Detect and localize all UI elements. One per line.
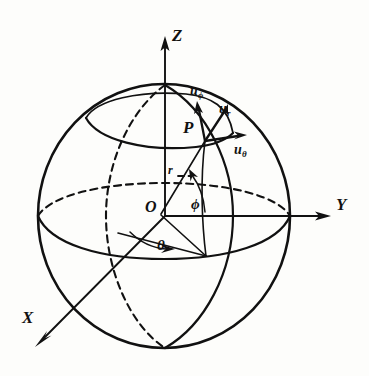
equator-back-dashed: [38, 183, 290, 216]
unit-vector-ur-label: ur: [219, 102, 231, 118]
meridian-back-dashed: [106, 85, 165, 348]
point-p-label: P: [183, 119, 193, 136]
x-axis-label: X: [22, 309, 33, 326]
y-axis-label: Y: [336, 196, 346, 213]
x-axis-line: [44, 216, 165, 338]
phi-angle-label: ϕ: [191, 197, 200, 212]
theta-angle-label: θ: [157, 238, 165, 253]
z-axis-label: Z: [172, 27, 182, 44]
utheta-subscript: θ: [242, 149, 247, 159]
unit-vector-utheta-label: uθ: [234, 143, 247, 159]
spherical-coordinate-diagram: Z Y X P O r ϕ θ uϕ ur uθ: [0, 0, 369, 376]
uphi-subscript: ϕ: [198, 90, 203, 100]
unit-vector-uphi-label: uϕ: [190, 84, 203, 100]
radius-label: r: [168, 164, 173, 176]
ur-subscript: r: [227, 108, 231, 118]
utheta-base: u: [234, 142, 242, 157]
diagram-canvas: [0, 0, 369, 376]
origin-label: O: [145, 199, 157, 215]
uphi-base: u: [190, 83, 198, 98]
ur-base: u: [219, 101, 227, 116]
unit-vector-uphi-line: [199, 110, 205, 141]
